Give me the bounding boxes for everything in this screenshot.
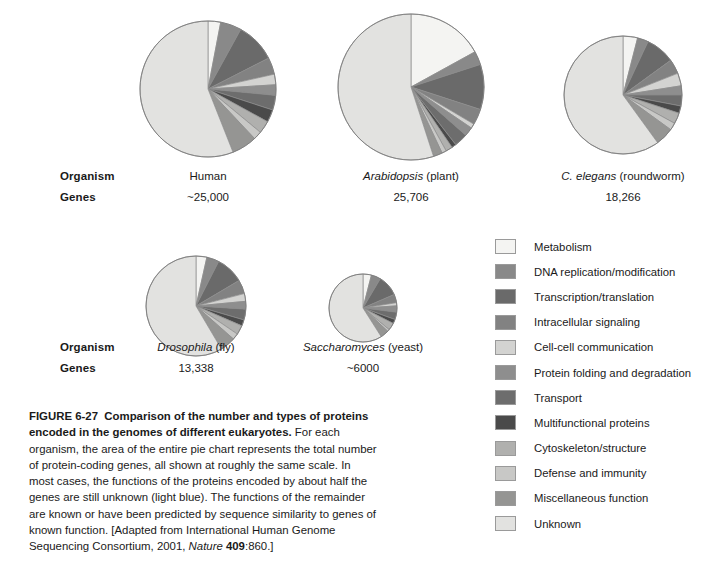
legend-swatch <box>495 466 516 481</box>
legend-label: DNA replication/modification <box>534 266 675 278</box>
legend-label: Protein folding and degradation <box>534 367 691 379</box>
pie-chart-human <box>138 19 278 159</box>
legend-swatch <box>495 516 516 531</box>
row-label-genes-1: Genes <box>60 191 96 203</box>
figure-caption: FIGURE 6-27 Comparison of the number and… <box>29 408 377 555</box>
legend-label: Intracellular signaling <box>534 316 640 328</box>
organism-name: Saccharomyces <box>303 341 385 353</box>
pie-chart-arabidopsis <box>336 12 486 162</box>
legend-item: Cytoskeleton/structure <box>495 436 691 461</box>
legend-swatch <box>495 315 516 330</box>
legend-label: Cytoskeleton/structure <box>534 442 646 454</box>
caption-journal: Nature <box>189 540 223 552</box>
organism-name: C. elegans <box>561 170 616 182</box>
legend-item: Unknown <box>495 511 691 536</box>
legend-item: Metabolism <box>495 234 691 259</box>
pie-chart-celegans <box>562 34 684 156</box>
organism-label-saccharomyces: Saccharomyces (yeast) <box>303 341 423 353</box>
legend-item: Intracellular signaling <box>495 310 691 335</box>
pie-chart-saccharomyces <box>327 272 399 344</box>
legend-item: Protein folding and degradation <box>495 360 691 385</box>
legend-item: Cell-cell communication <box>495 335 691 360</box>
organism-common-name: (plant) <box>423 170 459 182</box>
organism-name: Human <box>189 170 226 182</box>
row-label-organism-1: Organism <box>60 170 114 182</box>
figure-root: OrganismGenesOrganismGenesHuman~25,000Ar… <box>0 0 708 565</box>
organism-common-name: (yeast) <box>385 341 423 353</box>
legend-label: Multifunctional proteins <box>534 417 650 429</box>
organism-label-arabidopsis: Arabidopsis (plant) <box>363 170 459 182</box>
legend-swatch <box>495 264 516 279</box>
legend-item: Miscellaneous function <box>495 486 691 511</box>
legend-swatch <box>495 365 516 380</box>
legend-item: Transport <box>495 385 691 410</box>
legend-swatch <box>495 441 516 456</box>
legend-item: DNA replication/modification <box>495 259 691 284</box>
legend-label: Metabolism <box>534 241 592 253</box>
legend-label: Cell-cell communication <box>534 341 653 353</box>
legend-swatch <box>495 239 516 254</box>
legend-label: Unknown <box>534 518 581 530</box>
legend-label: Transport <box>534 392 582 404</box>
organism-label-drosophila: Drosophila (fly) <box>157 341 234 353</box>
legend-label: Defense and immunity <box>534 467 646 479</box>
legend-label: Miscellaneous function <box>534 492 648 504</box>
organism-common-name: (fly) <box>212 341 234 353</box>
legend: MetabolismDNA replication/modificationTr… <box>495 234 691 536</box>
gene-count-human: ~25,000 <box>187 191 229 203</box>
gene-count-arabidopsis: 25,706 <box>393 191 428 203</box>
gene-count-saccharomyces: ~6000 <box>347 362 379 374</box>
legend-swatch <box>495 289 516 304</box>
gene-count-drosophila: 13,338 <box>178 362 213 374</box>
legend-swatch <box>495 491 516 506</box>
gene-count-celegans: 18,266 <box>605 191 640 203</box>
organism-name: Arabidopsis <box>363 170 423 182</box>
caption-volume: 409 <box>226 540 245 552</box>
organism-name: Drosophila <box>157 341 212 353</box>
legend-item: Defense and immunity <box>495 461 691 486</box>
row-label-organism-2: Organism <box>60 341 114 353</box>
legend-item: Transcription/translation <box>495 284 691 309</box>
legend-swatch <box>495 390 516 405</box>
organism-common-name: (roundworm) <box>616 170 684 182</box>
caption-body: For each organism, the area of the entir… <box>29 426 377 552</box>
legend-swatch <box>495 415 516 430</box>
organism-label-celegans: C. elegans (roundworm) <box>561 170 684 182</box>
legend-swatch <box>495 340 516 355</box>
caption-pages: :860.] <box>245 540 274 552</box>
organism-label-human: Human <box>189 170 226 182</box>
row-label-genes-2: Genes <box>60 362 96 374</box>
legend-item: Multifunctional proteins <box>495 410 691 435</box>
figure-number: FIGURE 6-27 <box>29 410 98 422</box>
legend-label: Transcription/translation <box>534 291 654 303</box>
